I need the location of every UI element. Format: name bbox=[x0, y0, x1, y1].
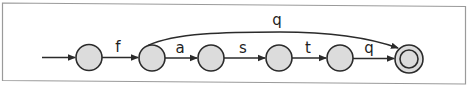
label-f: f bbox=[115, 38, 121, 56]
label-q-arc: q bbox=[272, 11, 282, 29]
label-a: a bbox=[175, 39, 184, 57]
state-s4 bbox=[327, 45, 353, 71]
automaton-diagram: f a s t q q bbox=[0, 0, 469, 88]
state-s1 bbox=[139, 45, 165, 71]
state-s2 bbox=[198, 45, 224, 71]
label-t: t bbox=[305, 39, 311, 57]
state-s3 bbox=[266, 45, 292, 71]
state-s0 bbox=[76, 45, 102, 71]
label-s: s bbox=[239, 39, 247, 57]
label-q: q bbox=[364, 39, 374, 57]
state-s5-accepting-inner bbox=[400, 50, 418, 68]
diagram-frame bbox=[3, 3, 466, 84]
